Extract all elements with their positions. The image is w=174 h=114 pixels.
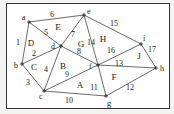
region-label-A: A [77,80,84,90]
region-label-H: H [100,34,107,44]
edge-label: 17 [148,45,156,54]
vertex-label-a: a [22,13,26,22]
edge-label: 16 [107,46,115,55]
region-label-G: G [78,39,85,49]
vertex-label-f: f [89,62,92,71]
edge-label: 14 [87,38,95,47]
edge-label: 6 [50,10,54,19]
edge-label: 7 [71,30,75,39]
edge-label: 13 [115,59,123,68]
vertex-label-g: g [107,99,111,108]
vertex-label-e: e [87,7,91,16]
region-label-F: F [111,72,116,82]
edge-label: 3 [26,78,30,87]
edge-label: 1 [16,38,20,47]
graph-diagram: 1234567891011121314151617abcdefghiABCDEF… [0,0,174,114]
vertex-label-b: b [14,61,18,70]
edge-label: 5 [44,28,48,37]
edge-label: 15 [110,19,118,28]
edge-label: 9 [65,70,69,79]
edge-label: 12 [126,83,134,92]
edge-label: 10 [65,96,73,105]
region-label-E: E [55,22,61,32]
edge-label: 11 [90,83,98,92]
region-label-D: D [28,38,35,48]
diagram-frame [7,4,170,109]
region-label-B: B [60,61,66,71]
vertex-label-h: h [160,64,164,73]
vertex-label-d: d [51,42,55,51]
edge-label: 2 [32,49,36,58]
region-label-C: C [31,62,37,72]
region-label-J: J [137,51,141,61]
vertex-label-c: c [39,92,43,101]
edge-label: 4 [44,65,48,74]
